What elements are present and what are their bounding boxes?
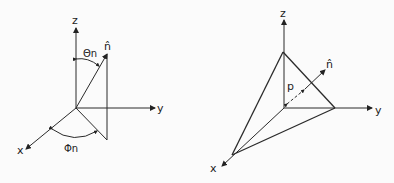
x-axis-label: x [210, 162, 217, 175]
theta-arc [76, 59, 99, 66]
triangle-zx-edge [232, 52, 283, 155]
phi-arc [52, 129, 97, 138]
p-label: p [287, 80, 294, 93]
x-axis-label: x [17, 144, 24, 157]
spherical-angles-diagram [26, 28, 155, 149]
plane-normal-diagram [222, 20, 372, 166]
z-axis-label: z [72, 14, 78, 27]
theta-label: Θn [83, 48, 97, 59]
y-axis-label: y [157, 102, 164, 115]
y-axis-label: y [375, 104, 382, 117]
figure: z y x n̂ Θn Φn z y x n̂ p [0, 0, 394, 183]
triangle-xy-edge [232, 108, 335, 155]
projection-line [76, 108, 107, 140]
n-vector [76, 54, 107, 108]
phi-label: Φn [64, 143, 78, 154]
x-axis [222, 108, 284, 166]
n-hat-label: n̂ [104, 40, 111, 53]
z-axis-label: z [280, 7, 286, 20]
n-hat-label: n̂ [326, 58, 333, 71]
